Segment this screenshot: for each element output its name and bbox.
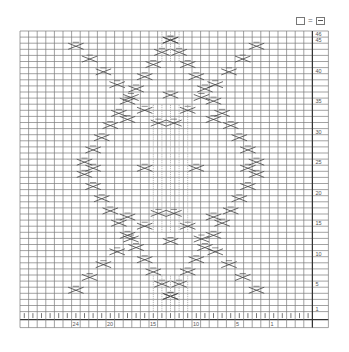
svg-text:45: 45 (315, 37, 321, 43)
svg-text:1: 1 (270, 321, 273, 327)
svg-text:20: 20 (107, 321, 113, 327)
svg-text:5: 5 (315, 281, 318, 287)
svg-text:24: 24 (73, 321, 79, 327)
svg-text:40: 40 (315, 68, 321, 74)
svg-text:10: 10 (193, 321, 199, 327)
svg-text:15: 15 (315, 220, 321, 226)
svg-text:10: 10 (315, 251, 321, 257)
svg-text:1: 1 (315, 306, 318, 312)
svg-text:30: 30 (315, 129, 321, 135)
svg-text:15: 15 (150, 321, 156, 327)
svg-text:5: 5 (236, 321, 239, 327)
chart-grid (20, 31, 328, 328)
svg-text:35: 35 (315, 98, 321, 104)
svg-text:20: 20 (315, 190, 321, 196)
knitting-chart: 46454035302520151051 2420151051 (0, 0, 349, 352)
svg-text:46: 46 (315, 31, 321, 37)
svg-text:25: 25 (315, 159, 321, 165)
